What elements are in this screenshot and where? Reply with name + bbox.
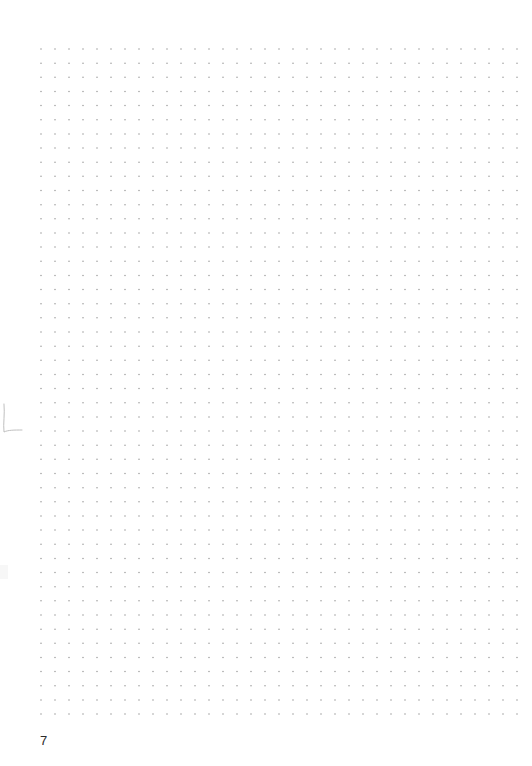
grid-dot — [446, 275, 448, 277]
grid-dot — [446, 657, 448, 659]
grid-dot — [460, 374, 462, 376]
grid-dot — [96, 685, 98, 687]
grid-dot — [152, 657, 154, 659]
grid-dot — [208, 402, 210, 404]
grid-dot — [292, 289, 294, 291]
grid-dot — [334, 671, 336, 673]
grid-dot — [348, 558, 350, 560]
grid-dot — [376, 261, 378, 263]
grid-dot — [180, 459, 182, 461]
grid-dot — [208, 473, 210, 475]
grid-dot — [138, 147, 140, 149]
grid-dot — [516, 345, 518, 347]
grid-dot — [404, 657, 406, 659]
grid-dot — [222, 176, 224, 178]
grid-dot — [124, 345, 126, 347]
grid-dot — [432, 586, 434, 588]
grid-dot — [488, 204, 490, 206]
grid-dot — [250, 473, 252, 475]
grid-dot — [320, 133, 322, 135]
grid-dot — [222, 133, 224, 135]
grid-dot — [362, 331, 364, 333]
grid-dot — [264, 388, 266, 390]
grid-dot — [180, 685, 182, 687]
grid-dot — [306, 161, 308, 163]
grid-dot — [82, 105, 84, 107]
grid-dot — [110, 232, 112, 234]
grid-dot — [474, 544, 476, 546]
grid-dot — [404, 218, 406, 220]
grid-dot — [502, 91, 504, 93]
grid-dot — [194, 360, 196, 362]
grid-dot — [152, 614, 154, 616]
grid-dot — [194, 91, 196, 93]
grid-dot — [68, 345, 70, 347]
grid-dot — [194, 572, 196, 574]
grid-dot — [96, 558, 98, 560]
grid-dot — [236, 317, 238, 319]
grid-dot — [194, 331, 196, 333]
grid-dot — [390, 246, 392, 248]
grid-dot — [208, 572, 210, 574]
grid-dot — [236, 614, 238, 616]
grid-dot — [110, 586, 112, 588]
grid-dot — [180, 388, 182, 390]
grid-dot — [516, 176, 518, 178]
grid-dot — [306, 643, 308, 645]
grid-dot — [166, 317, 168, 319]
grid-dot — [418, 161, 420, 163]
grid-dot — [110, 161, 112, 163]
grid-dot — [264, 133, 266, 135]
grid-dot — [376, 713, 378, 715]
grid-dot — [264, 161, 266, 163]
grid-dot — [348, 176, 350, 178]
grid-dot — [124, 544, 126, 546]
grid-dot — [208, 218, 210, 220]
grid-dot — [348, 62, 350, 64]
grid-dot — [320, 317, 322, 319]
grid-dot — [264, 91, 266, 93]
grid-dot — [418, 303, 420, 305]
grid-dot — [460, 572, 462, 574]
grid-dot — [166, 699, 168, 701]
grid-dot — [446, 529, 448, 531]
grid-dot — [82, 416, 84, 418]
grid-dot — [348, 275, 350, 277]
grid-dot — [54, 444, 56, 446]
grid-dot — [180, 657, 182, 659]
grid-dot — [432, 501, 434, 503]
grid-dot — [474, 360, 476, 362]
grid-dot — [320, 275, 322, 277]
grid-dot — [320, 501, 322, 503]
grid-dot — [82, 643, 84, 645]
grid-dot — [460, 303, 462, 305]
grid-dot — [138, 105, 140, 107]
grid-dot — [362, 388, 364, 390]
grid-dot — [152, 77, 154, 79]
grid-dot — [96, 133, 98, 135]
grid-dot — [54, 515, 56, 517]
grid-dot — [180, 515, 182, 517]
grid-dot — [292, 105, 294, 107]
grid-dot — [124, 586, 126, 588]
grid-dot — [96, 444, 98, 446]
grid-dot — [418, 119, 420, 121]
grid-dot — [124, 473, 126, 475]
grid-dot — [390, 515, 392, 517]
grid-dot — [320, 105, 322, 107]
grid-dot — [362, 176, 364, 178]
grid-dot — [54, 600, 56, 602]
grid-dot — [418, 261, 420, 263]
grid-dot — [68, 628, 70, 630]
grid-dot — [278, 161, 280, 163]
grid-dot — [474, 430, 476, 432]
grid-dot — [194, 699, 196, 701]
grid-dot — [390, 48, 392, 50]
grid-dot — [264, 62, 266, 64]
grid-dot — [474, 600, 476, 602]
grid-dot — [278, 105, 280, 107]
grid-dot — [264, 147, 266, 149]
grid-dot — [502, 289, 504, 291]
grid-dot — [152, 360, 154, 362]
grid-dot — [292, 487, 294, 489]
